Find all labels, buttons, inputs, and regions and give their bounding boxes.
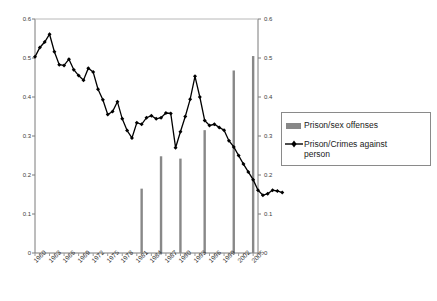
y-axis-left-tick-1: 0.5: [9, 55, 31, 61]
y-axis-left-tick-0: 0.6: [9, 16, 31, 22]
chart-container: 0.60.50.40.30.20.10 0.60.50.40.30.20.10 …: [0, 0, 437, 301]
y-axis-right-tick-5: 0.1: [264, 211, 286, 217]
legend-label-prison-sex-offenses: Prison/sex offenses: [304, 120, 378, 130]
legend-item-prison-crimes-against-person: Prison/Crimes against person: [282, 139, 430, 159]
y-axis-left-tick-4: 0.2: [9, 172, 31, 178]
y-axis-left-tick-5: 0.1: [9, 211, 31, 217]
y-axis-right-tick-4: 0.2: [264, 172, 286, 178]
y-axis-left-tick-6: 0: [9, 250, 31, 256]
legend-line-marker-icon: [285, 139, 303, 149]
y-axis-left-tick-3: 0.3: [9, 133, 31, 139]
y-axis-right-tick-6: 0: [264, 250, 286, 256]
chart-legend: Prison/sex offenses Prison/Crimes agains…: [281, 112, 431, 166]
legend-label-prison-crimes-against-person: Prison/Crimes against person: [304, 139, 387, 159]
y-axis-right-tick-1: 0.5: [264, 55, 286, 61]
legend-bar-swatch-icon: [286, 123, 301, 129]
y-axis-right-tick-2: 0.4: [264, 94, 286, 100]
legend-item-prison-sex-offenses: Prison/sex offenses: [282, 120, 430, 130]
y-axis-right-tick-0: 0.6: [264, 16, 286, 22]
y-axis-left-tick-2: 0.4: [9, 94, 31, 100]
